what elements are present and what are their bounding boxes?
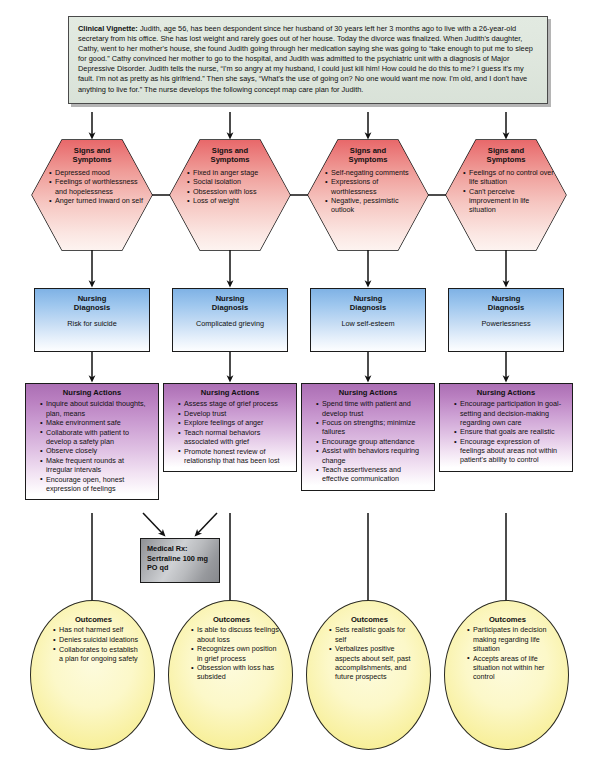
list-item: Make frequent rounds at irregular interv… — [40, 456, 152, 474]
nursing-actions-title-4: Nursing Actions — [446, 388, 566, 397]
nursing-diagnosis-box-3: NursingDiagnosis Low self-esteem — [310, 288, 426, 352]
list-item: Accepts areas of life situation not with… — [467, 654, 556, 682]
signs-symptoms-list-4: Feelings of no control over life situati… — [455, 168, 557, 214]
signs-symptoms-title-4: Signs andSymptoms — [455, 146, 557, 165]
list-item: Collaborate with patient to develop a sa… — [40, 428, 152, 446]
list-item: Denies suicidal ideations — [53, 635, 142, 644]
signs-symptoms-content-3: Signs andSymptoms Self-negating comments… — [308, 140, 428, 250]
medical-rx-line2: Sertraline 100 mg — [147, 554, 208, 563]
nursing-diagnosis-box-2: NursingDiagnosis Complicated grieving — [172, 288, 288, 352]
outcomes-list-1: Has not harmed self Denies suicidal idea… — [45, 625, 142, 663]
medical-rx-box: Medical Rx: Sertraline 100 mg PO qd — [140, 538, 220, 583]
signs-symptoms-list-2: Fixed in anger stage Social isolation Ob… — [179, 168, 281, 206]
outcomes-title-1: Outcomes — [45, 615, 142, 624]
signs-symptoms-content-1: Signs andSymptoms Depressed mood Feeling… — [32, 140, 152, 250]
list-item: Feelings of worthlessness and hopelessne… — [49, 177, 143, 195]
list-item: Encourage group attendance — [316, 437, 428, 446]
nursing-actions-box-2: Nursing Actions Assess stage of grief pr… — [163, 383, 297, 472]
outcomes-oval-2: Outcomes Is able to discuss feelings abo… — [168, 600, 293, 750]
list-item: Teach normal behaviors associated with g… — [178, 428, 290, 446]
outcomes-oval-1: Outcomes Has not harmed self Denies suic… — [30, 600, 155, 750]
signs-symptoms-list-1: Depressed mood Feelings of worthlessness… — [41, 168, 143, 205]
list-item: Recognizes own position in grief process — [191, 644, 280, 663]
concept-map-canvas: Clinical Vignette: Judith, age 56, has b… — [0, 0, 609, 760]
medical-rx-line3: PO qd — [147, 563, 169, 572]
signs-symptoms-list-3: Self-negating comments Expressions of wo… — [317, 168, 419, 215]
nursing-diagnosis-value-4: Powerlessness — [455, 319, 557, 328]
outcomes-title-3: Outcomes — [321, 615, 418, 624]
list-item: Can't perceive improvement in life situa… — [463, 187, 557, 215]
nursing-actions-box-1: Nursing Actions Inquire about suicidal t… — [25, 383, 159, 500]
signs-symptoms-title-3: Signs andSymptoms — [317, 146, 419, 165]
nursing-diagnosis-title-2: NursingDiagnosis — [179, 294, 281, 313]
clinical-vignette-text: Judith, age 56, has been despondent sinc… — [78, 24, 533, 94]
list-item: Inquire about suicidal thoughts, plan, m… — [40, 399, 152, 417]
list-item: Negative, pessimistic outlook — [325, 196, 419, 214]
list-item: Self-negating comments — [325, 168, 419, 177]
nursing-actions-title-2: Nursing Actions — [170, 388, 290, 397]
nursing-diagnosis-title-3: NursingDiagnosis — [317, 294, 419, 313]
outcomes-title-4: Outcomes — [459, 615, 556, 624]
list-item: Depressed mood — [49, 168, 143, 177]
list-item: Obsession with loss has subsided — [191, 663, 280, 682]
list-item: Encourage open, honest expression of fee… — [40, 475, 152, 493]
outcomes-oval-4: Outcomes Participates in decision making… — [444, 600, 569, 750]
nursing-actions-list-4: Encourage participation in goal-setting … — [446, 399, 566, 464]
nursing-diagnosis-value-2: Complicated grieving — [179, 319, 281, 328]
nursing-diagnosis-title-4: NursingDiagnosis — [455, 294, 557, 313]
nursing-diagnosis-box-4: NursingDiagnosis Powerlessness — [448, 288, 564, 352]
list-item: Has not harmed self — [53, 625, 142, 634]
outcomes-list-2: Is able to discuss feelings about loss R… — [183, 625, 280, 681]
list-item: Collaborates to establish a plan for ong… — [53, 645, 142, 664]
list-item: Social isolation — [187, 177, 281, 186]
nursing-actions-list-2: Assess stage of grief process Develop tr… — [170, 399, 290, 465]
clinical-vignette-label: Clinical Vignette: — [78, 24, 138, 33]
list-item: Assess stage of grief process — [178, 399, 290, 408]
outcomes-oval-3: Outcomes Sets realistic goals for self V… — [306, 600, 431, 750]
list-item: Feelings of no control over life situati… — [463, 168, 557, 186]
list-item: Ensure that goals are realistic — [454, 427, 566, 436]
list-item: Anger turned inward on self — [49, 196, 143, 205]
list-item: Spend time with patient and develop trus… — [316, 399, 428, 417]
list-item: Expressions of worthlessness — [325, 177, 419, 195]
clinical-vignette: Clinical Vignette: Judith, age 56, has b… — [68, 16, 548, 104]
signs-symptoms-content-2: Signs andSymptoms Fixed in anger stage S… — [170, 140, 290, 250]
list-item: Explore feelings of anger — [178, 418, 290, 427]
medical-rx-line1: Medical Rx: — [147, 544, 188, 553]
outcomes-list-4: Participates in decision making regardin… — [459, 625, 556, 681]
nursing-diagnosis-title-1: NursingDiagnosis — [41, 294, 143, 313]
signs-symptoms-content-4: Signs andSymptoms Feelings of no control… — [446, 140, 566, 250]
list-item: Promote honest review of relationship th… — [178, 447, 290, 465]
list-item: Focus on strengths; minimize failures — [316, 418, 428, 436]
list-item: Develop trust — [178, 409, 290, 418]
nursing-diagnosis-value-1: Risk for suicide — [41, 319, 143, 328]
signs-symptoms-title-2: Signs andSymptoms — [179, 146, 281, 165]
signs-symptoms-title-1: Signs andSymptoms — [41, 146, 143, 165]
nursing-actions-title-1: Nursing Actions — [32, 388, 152, 397]
list-item: Encourage participation in goal-setting … — [454, 399, 566, 427]
list-item: Fixed in anger stage — [187, 168, 281, 177]
list-item: Obsession with loss — [187, 187, 281, 196]
nursing-actions-box-3: Nursing Actions Spend time with patient … — [301, 383, 435, 491]
nursing-actions-list-1: Inquire about suicidal thoughts, plan, m… — [32, 399, 152, 493]
nursing-diagnosis-box-1: NursingDiagnosis Risk for suicide — [34, 288, 150, 352]
list-item: Participates in decision making regardin… — [467, 625, 556, 653]
list-item: Verbalizes positive aspects about self, … — [329, 644, 418, 681]
nursing-actions-list-3: Spend time with patient and develop trus… — [308, 399, 428, 483]
outcomes-list-3: Sets realistic goals for self Verbalizes… — [321, 625, 418, 681]
list-item: Is able to discuss feelings about loss — [191, 625, 280, 644]
nursing-diagnosis-value-3: Low self-esteem — [317, 319, 419, 328]
list-item: Assist with behaviors requiring change — [316, 446, 428, 464]
list-item: Sets realistic goals for self — [329, 625, 418, 644]
list-item: Encourage expression of feelings about a… — [454, 437, 566, 465]
nursing-actions-title-3: Nursing Actions — [308, 388, 428, 397]
list-item: Loss of weight — [187, 196, 281, 205]
list-item: Observe closely — [40, 446, 152, 455]
list-item: Teach assertiveness and effective commun… — [316, 465, 428, 483]
outcomes-title-2: Outcomes — [183, 615, 280, 624]
list-item: Make environment safe — [40, 418, 152, 427]
nursing-actions-box-4: Nursing Actions Encourage participation … — [439, 383, 573, 472]
